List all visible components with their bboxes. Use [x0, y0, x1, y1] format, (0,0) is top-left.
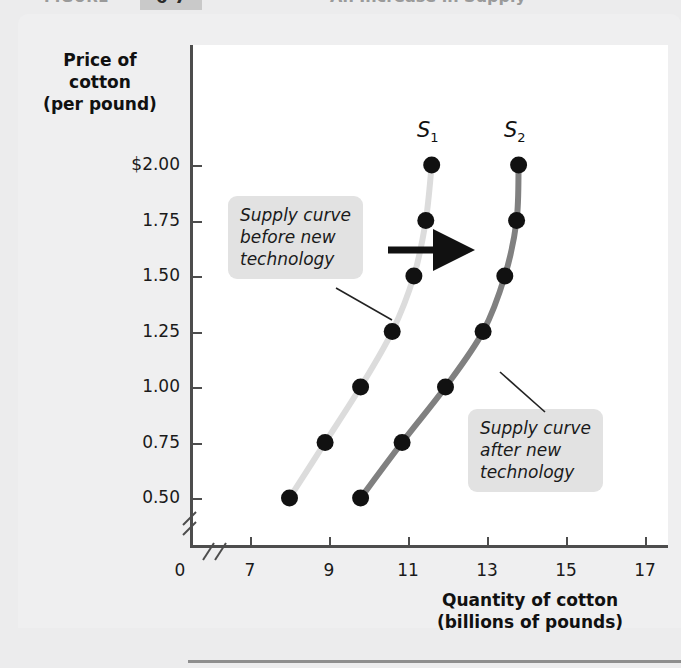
bottom-rule	[188, 660, 681, 663]
x-tick-mark	[487, 537, 489, 548]
y-tick-mark	[190, 443, 202, 445]
y-tick-label: 0.50	[88, 487, 180, 507]
callout-supply-before: Supply curve before new technology	[228, 196, 363, 279]
x-tick-mark	[645, 537, 647, 548]
y-tick-label: 1.75	[88, 210, 180, 230]
y-tick-label: $2.00	[88, 154, 180, 174]
origin-label: 0	[160, 560, 200, 580]
y-tick-label: 0.75	[88, 432, 180, 452]
y-tick-label: 1.00	[88, 376, 180, 396]
curve-label-s1-subscript: 1	[430, 130, 438, 145]
x-tick-label: 11	[388, 560, 428, 580]
y-tick-mark	[190, 498, 202, 500]
y-tick-mark	[190, 332, 202, 334]
y-tick-label: 1.25	[88, 321, 180, 341]
x-tick-mark	[329, 537, 331, 548]
curve-label-s1: S1	[417, 118, 439, 145]
x-tick-mark	[250, 537, 252, 548]
x-tick-label: 17	[625, 560, 665, 580]
callout-supply-after: Supply curve after new technology	[468, 409, 603, 492]
y-tick-label: 1.50	[88, 265, 180, 285]
figure-banner: FIGURE 6-7 An Increase in Supply	[0, 0, 681, 14]
y-tick-mark	[190, 221, 202, 223]
x-tick-label: 9	[309, 560, 349, 580]
x-axis-title: Quantity of cotton (billions of pounds)	[390, 590, 670, 634]
x-tick-label: 13	[467, 560, 507, 580]
x-tick-mark	[408, 537, 410, 548]
x-tick-label: 7	[230, 560, 270, 580]
figure-title: An Increase in Supply	[330, 0, 526, 6]
y-tick-mark	[190, 276, 202, 278]
y-tick-mark	[190, 387, 202, 389]
figure-label: FIGURE	[44, 0, 109, 6]
curve-label-s2: S2	[504, 118, 526, 145]
curve-label-s2-subscript: 2	[517, 130, 525, 145]
x-tick-mark	[566, 537, 568, 548]
y-axis-title: Price of cotton (per pound)	[20, 50, 180, 115]
curve-label-s2-text: S	[504, 118, 517, 142]
y-tick-mark	[190, 165, 202, 167]
curve-label-s1-text: S	[417, 118, 430, 142]
x-tick-label: 15	[546, 560, 586, 580]
figure-number: 6-7	[140, 0, 202, 10]
